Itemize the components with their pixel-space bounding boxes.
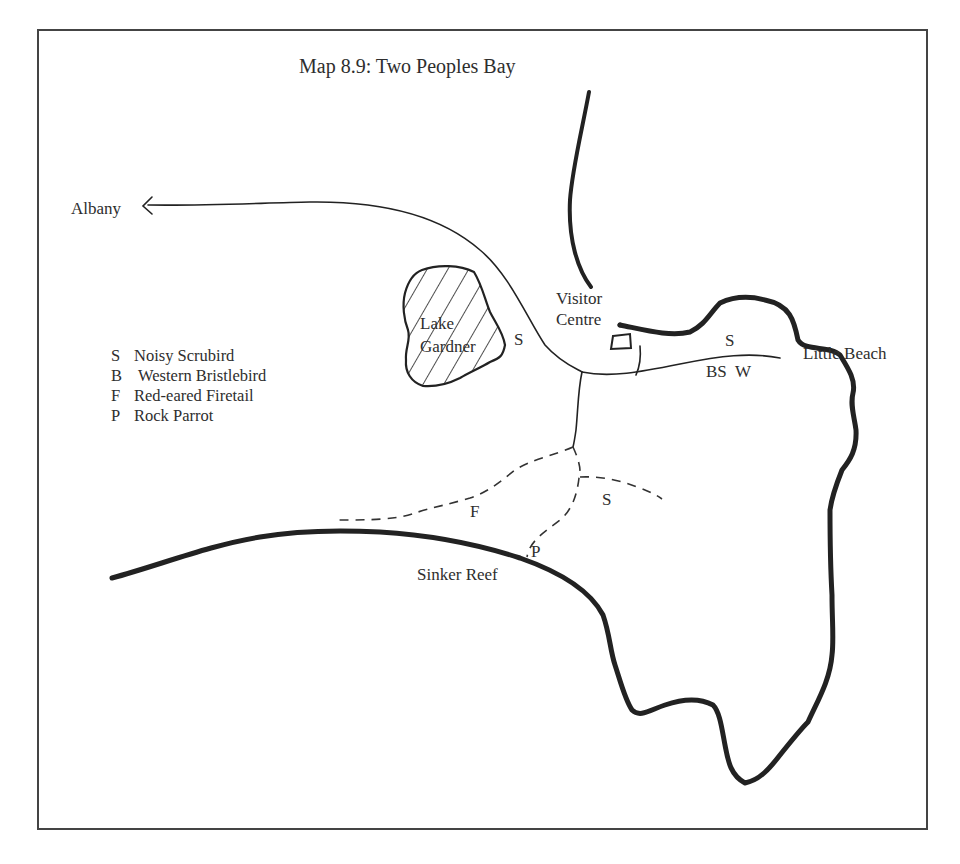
label-sinker-reef: Sinker Reef — [417, 565, 498, 584]
legend-label: Red-eared Firetail — [134, 386, 254, 405]
track-scrubird — [580, 477, 662, 499]
track-firetail — [335, 447, 573, 520]
legend-label: Rock Parrot — [134, 406, 214, 425]
label-road-code-s: S — [725, 331, 734, 350]
label-visitor-line2: Centre — [556, 310, 601, 329]
label-track-code-s: S — [602, 490, 611, 509]
lake-gardner — [404, 266, 505, 386]
legend-label: Western Bristlebird — [138, 366, 267, 385]
label-lake-line2: Gardner — [420, 337, 476, 356]
label-track-code-p: P — [531, 542, 540, 561]
map-figure: Map 8.9: Two Peoples Bay Albany Lake Gar… — [0, 0, 960, 864]
legend-label: Noisy Scrubird — [134, 346, 235, 365]
road-south — [573, 372, 582, 447]
label-albany: Albany — [71, 199, 122, 218]
map-frame — [38, 30, 927, 829]
label-track-code-f: F — [470, 502, 479, 521]
visitor-centre-building — [611, 334, 631, 349]
legend-code: B — [111, 366, 122, 385]
legend-code: F — [111, 386, 120, 405]
label-visitor-line1: Visitor — [556, 289, 603, 308]
legend-code: P — [111, 406, 120, 425]
label-little-beach: Little Beach — [803, 344, 887, 363]
coast-point-marker — [618, 323, 623, 328]
map-title: Map 8.9: Two Peoples Bay — [299, 55, 516, 78]
label-lake-line1: Lake — [420, 314, 454, 333]
river-line — [570, 92, 591, 287]
legend: S Noisy Scrubird B Western Bristlebird F… — [111, 346, 267, 425]
label-lake-code-s: S — [514, 330, 523, 349]
label-road-code-bsw: BS W — [706, 362, 752, 381]
legend-code: S — [111, 346, 120, 365]
track-parrot — [527, 447, 580, 557]
